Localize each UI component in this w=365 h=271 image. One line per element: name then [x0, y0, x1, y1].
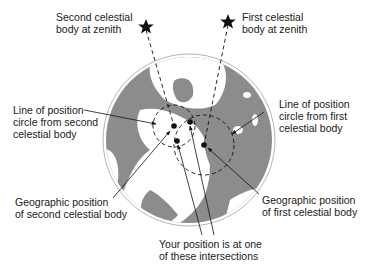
intersection-top-dot [187, 119, 193, 125]
label-your-position: Your position is at one of these interse… [159, 238, 262, 262]
label-lop-first: Line of position circle from first celes… [279, 98, 350, 134]
label-gp-first: Geographic position of first celestial b… [262, 194, 357, 218]
label-lop-second: Line of position circle from second cele… [13, 104, 98, 140]
label-gp-second: Geographic position of second celestial … [15, 196, 127, 220]
intersection-bottom-dot [174, 138, 180, 144]
label-second-zenith: Second celestial body at zenith [56, 11, 132, 35]
gp-second-dot [171, 123, 177, 129]
gp-first-dot [201, 142, 207, 148]
label-first-zenith: First celestial body at zenith [242, 11, 307, 35]
